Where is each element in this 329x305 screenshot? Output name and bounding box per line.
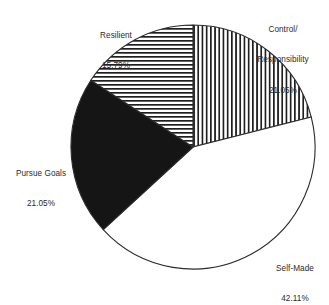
slice-label-control-responsibility: Control/ Responsibility 21.05%: [239, 4, 327, 117]
slice-label-name: Resilient: [83, 31, 149, 41]
slice-label-name-line1: Control/: [239, 25, 327, 35]
slice-label-resilient: Resilient 15.79%: [83, 10, 149, 92]
slice-label-pursue-goals: Pursue Goals 21.05%: [2, 148, 80, 230]
slice-label-percent: 21.05%: [239, 86, 327, 96]
slice-label-percent: 15.79%: [83, 61, 149, 71]
slice-label-name-line2: Responsibility: [239, 55, 327, 65]
slice-label-percent: 42.11%: [263, 294, 327, 304]
slice-label-self-made: Self-Made 42.11%: [263, 243, 327, 305]
slice-label-percent: 21.05%: [2, 199, 80, 209]
slice-label-name: Pursue Goals: [2, 169, 80, 179]
slice-label-name: Self-Made: [263, 264, 327, 274]
